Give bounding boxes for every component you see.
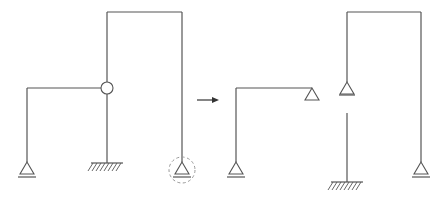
left-substructure (227, 88, 319, 177)
fixed-support-icon (88, 163, 123, 171)
upper-portal (339, 12, 430, 177)
pin-support-icon (305, 88, 319, 100)
fixed-support-icon (328, 182, 363, 190)
cantilever-column (328, 113, 363, 190)
pin-support-icon (18, 162, 36, 177)
transform-arrow-icon (197, 97, 219, 103)
original-structure (18, 12, 195, 183)
structural-diagram (0, 0, 446, 199)
pin-support-icon (173, 162, 191, 177)
hinge-icon (101, 82, 113, 94)
pin-support-icon (227, 162, 245, 177)
pin-support-icon (339, 82, 355, 95)
pin-support-icon (412, 162, 430, 177)
